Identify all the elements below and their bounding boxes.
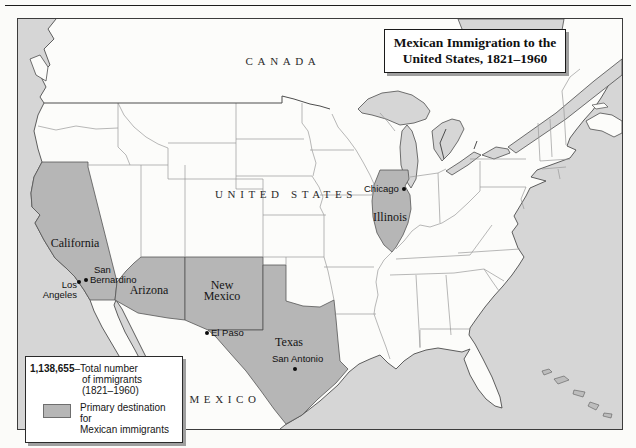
- label-los-angeles-line2: Angeles: [40, 290, 77, 300]
- legend-destination-row: Primary destination for Mexican immigran…: [30, 402, 178, 435]
- map-title-line1: Mexican Immigration to the: [389, 35, 561, 51]
- label-san-bernardino-line2: Bernardino: [90, 275, 136, 285]
- legend-total-line2: of immigrants: [82, 374, 178, 385]
- label-chicago: Chicago: [364, 184, 399, 194]
- legend: 1,138,655–Total number of immigrants (18…: [25, 356, 183, 443]
- legend-destination-line1: Primary destination for: [80, 402, 178, 424]
- page-top-rule: [5, 5, 631, 6]
- legend-swatch: [43, 404, 71, 418]
- label-los-angeles: Los Angeles: [40, 280, 77, 300]
- label-canada: CANADA: [233, 55, 333, 67]
- map-title: Mexican Immigration to the United States…: [384, 29, 566, 73]
- los-angeles-dot: [77, 280, 81, 284]
- legend-destination-text: Primary destination for Mexican immigran…: [80, 402, 178, 435]
- legend-total-line1: –Total number: [75, 363, 138, 374]
- label-united-states: UNITED STATES: [186, 188, 386, 200]
- label-illinois: Illinois: [360, 210, 420, 225]
- label-san-bernardino: San Bernardino: [90, 265, 136, 285]
- label-new-mexico: New Mexico: [192, 280, 252, 302]
- map-title-line2: United States, 1821–1960: [389, 51, 561, 67]
- legend-total: 1,138,655–Total number: [30, 363, 178, 374]
- legend-total-line3: (1821–1960): [82, 385, 178, 396]
- page: { "map": { "title_line1": "Mexican Immig…: [0, 0, 636, 448]
- el-paso-dot: [205, 331, 209, 335]
- label-california: California: [45, 236, 105, 251]
- san-antonio-dot: [293, 367, 297, 371]
- chicago-dot: [402, 187, 406, 191]
- san-bernardino-dot: [84, 278, 88, 282]
- label-el-paso: El Paso: [211, 328, 244, 338]
- label-arizona: Arizona: [119, 283, 179, 298]
- label-san-antonio: San Antonio: [272, 354, 323, 364]
- label-texas: Texas: [259, 335, 319, 350]
- legend-destination-line2: Mexican immigrants: [80, 424, 178, 435]
- label-mexico: MEXICO: [175, 393, 275, 405]
- map: CANADA UNITED STATES MEXICO California A…: [17, 18, 623, 430]
- legend-total-value: 1,138,655: [30, 363, 75, 374]
- label-new-mexico-line2: Mexico: [192, 291, 252, 302]
